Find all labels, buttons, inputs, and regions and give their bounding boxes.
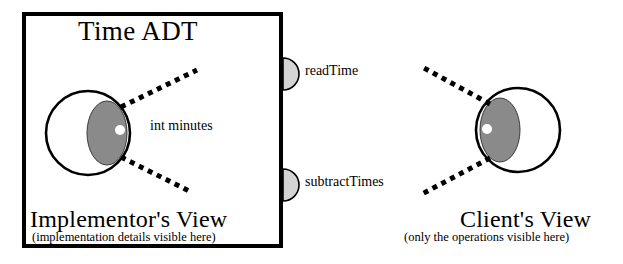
implementor-eye	[46, 91, 130, 175]
client-lower-sightline	[422, 158, 490, 194]
implementor-view-heading: Implementor's View	[30, 207, 227, 231]
page-title: Time ADT	[78, 18, 198, 45]
client-upper-sightline	[424, 68, 490, 104]
readtime-interface-lollipop[interactable]	[283, 58, 299, 90]
operation-label-readtime: readTime	[305, 64, 358, 78]
client-view-heading: Client's View	[460, 207, 591, 231]
implementor-view-subheading: (implementation details visible here)	[32, 231, 216, 244]
implementor-eye-pupil	[115, 125, 125, 135]
operation-label-subtracttimes: subtractTimes	[305, 175, 384, 189]
diagram-canvas: Time ADT int minutes readTime subtractTi…	[0, 0, 623, 264]
client-view-subheading: (only the operations visible here)	[404, 231, 569, 244]
internal-field-label: int minutes	[150, 119, 213, 133]
client-eye-pupil	[482, 124, 492, 134]
subtracttimes-interface-lollipop[interactable]	[283, 169, 299, 201]
